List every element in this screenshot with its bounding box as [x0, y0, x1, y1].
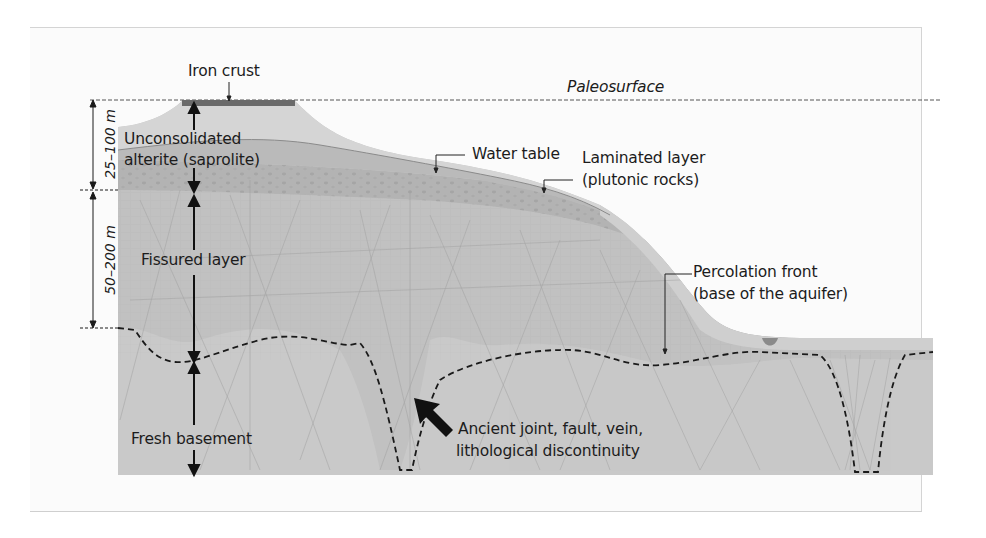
label-fissured-layer: Fissured layer	[141, 251, 246, 270]
label-water-table: Water table	[472, 145, 560, 164]
iron-crust-bar	[182, 100, 295, 106]
label-laminated-2: (plutonic rocks)	[582, 171, 699, 190]
label-percolation-2: (base of the aquifer)	[693, 285, 848, 304]
label-ancient-joint-2: lithological discontinuity	[456, 442, 640, 461]
label-iron-crust: Iron crust	[188, 62, 260, 81]
label-fresh-basement: Fresh basement	[131, 430, 252, 449]
label-percolation-1: Percolation front	[693, 263, 817, 282]
label-paleosurface: Paleosurface	[567, 78, 664, 97]
label-saprolite-2: alterite (saprolite)	[124, 151, 260, 170]
label-laminated-1: Laminated layer	[582, 149, 705, 168]
label-saprolite-1: Unconsolidated	[124, 130, 241, 149]
scale-label-upper: 25–100 m	[102, 109, 118, 179]
label-ancient-joint-1: Ancient joint, fault, vein,	[458, 420, 643, 439]
scale-label-lower: 50–200 m	[102, 225, 118, 295]
